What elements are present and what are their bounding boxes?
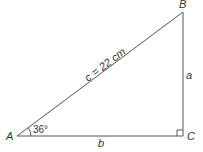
side-label-a: a [186, 69, 192, 81]
vertex-label-A: A [5, 130, 13, 142]
vertex-label-C: C [187, 130, 195, 142]
angle-arc-A [28, 128, 31, 136]
right-triangle-diagram: A B C a b c = 22 cm 36° [0, 0, 203, 152]
right-angle-marker [177, 130, 183, 136]
angle-label-A: 36° [33, 124, 48, 135]
side-label-c: c = 22 cm [82, 45, 128, 83]
vertex-label-B: B [179, 0, 186, 10]
side-label-b: b [98, 137, 104, 149]
